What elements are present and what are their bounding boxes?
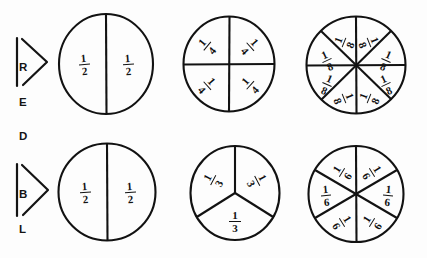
fraction-label: 1 2 [113,52,143,77]
color-tag-red: R E D [14,36,58,88]
pie-blue-sixths: 1 6 1 6 1 6 1 6 1 6 [306,144,408,246]
color-tag-red-label: R E D [19,39,35,85]
numerator: 1 [70,180,99,192]
color-tag-blue: B L U E [14,162,58,214]
numerator: 1 [69,52,98,64]
row-blue: B L U E 1 2 1 2 [0,129,427,258]
fraction-label: 1 6 [375,183,401,208]
fraction-circles-figure: R E D 1 2 1 2 [0,0,427,258]
pie-red-eighths: 1 8 1 8 1 8 1 8 1 8 [304,15,410,117]
fraction-label: 1 2 [70,180,100,205]
tag-letter: R [19,62,35,74]
fraction-label: 1 2 [115,180,145,205]
numerator: 1 [113,52,142,64]
denominator: 3 [222,223,248,233]
numerator: 1 [222,210,248,220]
denominator: 2 [71,193,100,205]
numerator: 1 [313,183,338,195]
denominator: 2 [116,193,145,205]
numerator: 1 [115,180,144,192]
color-tag-blue-label: B L U E [19,166,35,214]
denominator: 6 [375,196,400,208]
denominator: 6 [314,196,339,208]
pie-blue-thirds: 1 3 1 3 1 3 [188,144,284,244]
fraction-label: 1 3 [222,210,248,233]
pie-red-halves: 1 2 1 2 [56,11,156,117]
row-red: R E D 1 2 1 2 [0,0,427,129]
tag-letter: E [19,97,35,109]
numerator: 1 [376,183,401,195]
pie-red-fourths: 1 4 1 4 1 4 1 4 [181,15,279,115]
tag-letter: L [19,224,35,236]
tag-letter: B [19,189,35,201]
fraction-label: 1 2 [69,52,99,77]
denominator: 2 [114,65,143,77]
pie-blue-halves: 1 2 1 2 [56,142,160,244]
fraction-label: 1 6 [313,183,339,208]
